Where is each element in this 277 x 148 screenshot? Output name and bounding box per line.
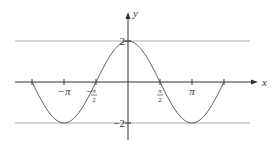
x-tick-label-num: π xyxy=(92,87,96,95)
x-tick-label: −π2 xyxy=(86,85,97,104)
x-tick-label: π2 xyxy=(157,87,163,104)
x-tick-label: π xyxy=(189,85,195,97)
x-tick-label-den: 2 xyxy=(158,96,162,104)
x-tick-label-den: 2 xyxy=(92,96,96,104)
cosine-chart: x y −π−π2π2π2−2 xyxy=(0,0,277,148)
y-axis-arrow xyxy=(126,12,131,19)
x-axis-arrow xyxy=(251,80,258,85)
y-axis-label: y xyxy=(132,7,138,19)
y-tick-label: 2 xyxy=(120,35,126,47)
x-tick-label-num: π xyxy=(158,87,162,95)
x-axis-label: x xyxy=(261,76,267,88)
y-tick-label: −2 xyxy=(113,117,125,129)
x-tick-label: −π xyxy=(58,85,71,97)
